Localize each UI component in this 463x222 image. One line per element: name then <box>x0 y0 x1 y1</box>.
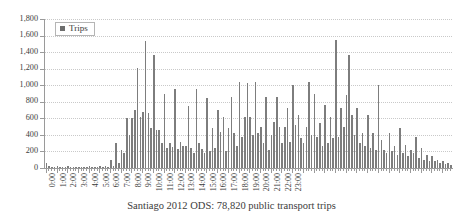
y-axis-tick-label: 1,800 <box>2 15 38 23</box>
x-axis-hour-tick <box>153 168 154 173</box>
x-axis-minor-tick <box>94 168 95 171</box>
x-axis-minor-tick <box>236 168 237 171</box>
x-axis-minor-tick <box>105 168 106 171</box>
x-axis-minor-tick <box>359 168 360 171</box>
x-axis-minor-tick <box>330 168 331 171</box>
x-axis-minor-tick <box>429 168 430 171</box>
x-axis-tick-label: 4:00 <box>92 173 100 187</box>
x-axis-minor-tick <box>102 168 103 171</box>
x-axis-minor-tick <box>113 168 114 171</box>
x-axis-minor-tick <box>231 168 232 171</box>
y-axis-tick <box>40 19 44 20</box>
x-axis-minor-tick <box>354 168 355 171</box>
x-axis-minor-tick <box>415 168 416 171</box>
x-axis-minor-tick <box>316 168 317 171</box>
x-axis-minor-tick <box>241 168 242 171</box>
x-axis-hour-tick <box>46 168 47 173</box>
x-axis-tick-label: 7:00 <box>124 173 132 187</box>
x-axis-tick-label: 20:00 <box>263 173 271 191</box>
x-axis-minor-tick <box>284 168 285 171</box>
x-axis-hour-tick <box>57 168 58 173</box>
x-axis-hour-tick <box>206 168 207 173</box>
x-axis-minor-tick <box>126 168 127 171</box>
x-axis-minor-tick <box>166 168 167 171</box>
x-axis-minor-tick <box>364 168 365 171</box>
x-axis-hour-tick <box>217 168 218 173</box>
x-axis-hour-tick <box>260 168 261 173</box>
x-axis-minor-tick <box>391 168 392 171</box>
x-axis-minor-tick <box>340 168 341 171</box>
x-axis-minor-tick <box>177 168 178 171</box>
x-axis-minor-tick <box>86 168 87 171</box>
x-axis-minor-tick <box>295 168 296 171</box>
x-axis-minor-tick <box>150 168 151 171</box>
x-axis-tick-label: 3:00 <box>81 173 89 187</box>
x-axis-minor-tick <box>437 168 438 171</box>
x-axis-minor-tick <box>268 168 269 171</box>
x-axis-tick-label: 17:00 <box>231 173 239 191</box>
x-axis-minor-tick <box>405 168 406 171</box>
x-axis-minor-tick <box>83 168 84 171</box>
x-axis-minor-tick <box>255 168 256 171</box>
x-axis-minor-tick <box>65 168 66 171</box>
x-axis-hour-tick <box>271 168 272 173</box>
y-axis-tick <box>40 69 44 70</box>
x-axis-minor-tick <box>265 168 266 171</box>
x-axis-hour-tick <box>421 168 422 173</box>
legend-swatch-icon <box>60 26 65 31</box>
x-axis-minor-tick <box>397 168 398 171</box>
x-axis-minor-tick <box>450 168 451 171</box>
x-axis-hour-tick <box>378 168 379 173</box>
x-axis-minor-tick <box>81 168 82 171</box>
x-axis-tick-label: 18:00 <box>242 173 250 191</box>
x-axis-hour-tick <box>335 168 336 173</box>
x-axis-hour-tick <box>431 168 432 173</box>
x-axis-tick-label: 23:00 <box>295 173 303 191</box>
legend: Trips <box>55 22 95 36</box>
x-axis-hour-tick <box>346 168 347 173</box>
x-axis-minor-tick <box>97 168 98 171</box>
x-axis-minor-tick <box>156 168 157 171</box>
x-axis-minor-tick <box>279 168 280 171</box>
x-axis-minor-tick <box>201 168 202 171</box>
x-axis-minor-tick <box>348 168 349 171</box>
y-axis-tick-label: 800 <box>2 97 38 105</box>
x-axis-minor-tick <box>319 168 320 171</box>
x-axis-tick-label: 14:00 <box>199 173 207 191</box>
y-axis-tick-label: 600 <box>2 114 38 122</box>
y-axis-tick <box>40 85 44 86</box>
x-axis-minor-tick <box>287 168 288 171</box>
x-axis-hour-tick <box>314 168 315 173</box>
x-axis-minor-tick <box>308 168 309 171</box>
x-axis-minor-tick <box>445 168 446 171</box>
x-axis-tick-label: 5:00 <box>103 173 111 187</box>
x-axis-minor-tick <box>447 168 448 171</box>
x-axis-minor-tick <box>225 168 226 171</box>
x-axis-minor-tick <box>212 168 213 171</box>
y-axis-tick <box>40 151 44 152</box>
x-axis-hour-tick <box>89 168 90 173</box>
x-axis-minor-tick <box>73 168 74 171</box>
x-axis-minor-tick <box>413 168 414 171</box>
x-axis-hour-tick <box>292 168 293 173</box>
chart-root: 02004006008001,0001,2001,4001,6001,800 0… <box>0 0 463 222</box>
x-axis-hour-tick <box>110 168 111 173</box>
x-axis-minor-tick <box>59 168 60 171</box>
x-axis-tick-label: 9:00 <box>145 173 153 187</box>
y-axis-tick-label: 0 <box>2 164 38 172</box>
x-axis-hour-tick <box>164 168 165 173</box>
x-axis-minor-tick <box>407 168 408 171</box>
x-axis-minor-tick <box>161 168 162 171</box>
x-axis-minor-tick <box>306 168 307 171</box>
y-axis-tick-label: 1,400 <box>2 48 38 56</box>
x-axis-minor-tick <box>48 168 49 171</box>
x-axis-minor-tick <box>172 168 173 171</box>
x-axis-tick-label: 22:00 <box>285 173 293 191</box>
x-axis-minor-tick <box>375 168 376 171</box>
x-axis-minor-tick <box>402 168 403 171</box>
x-axis-minor-tick <box>54 168 55 171</box>
y-axis-tick <box>40 168 44 169</box>
x-axis-hour-tick <box>78 168 79 173</box>
y-axis-tick <box>40 36 44 37</box>
x-axis-minor-tick <box>327 168 328 171</box>
